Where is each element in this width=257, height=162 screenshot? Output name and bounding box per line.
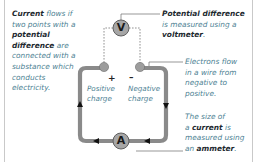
voltmeter-term: voltmeter [162,30,203,39]
negative-charge-label: Negative charge [128,84,160,104]
voltmeter-leader-line [121,14,160,20]
negative-terminal [135,62,144,71]
current-term: Current [12,9,44,18]
potential-difference-term: potential difference [12,30,54,50]
potential-difference-heading: Potential difference [162,9,245,18]
note-text: . [234,144,236,153]
ammeter-symbol: A [113,134,129,148]
voltmeter-lead-left [104,28,113,64]
voltmeter-lead-right [129,28,140,64]
note-text: a [185,123,192,132]
label-line: charge [87,94,115,104]
voltmeter-note: Potential difference is measured using a… [162,9,252,41]
current-explanation-note: Current flows if two points with a poten… [12,9,76,94]
note-line: Electrons flow [185,57,251,68]
label-line: Negative [128,84,160,94]
positive-sign: + [108,73,116,83]
negative-sign: – [129,72,134,82]
current-term: current [192,123,223,132]
label-line: Positive [87,84,115,94]
note-line: negative to [185,78,251,89]
note-line: The size of [185,112,251,123]
electrons-flow-note: Electrons flow in a wire from negative t… [185,57,251,99]
note-line: in a wire from [185,68,251,79]
ammeter-note: The size of a current is measured using … [185,112,251,154]
voltmeter-symbol: V [113,21,129,35]
note-line: measured using [185,133,251,144]
positive-charge-label: Positive charge [87,84,115,104]
ammeter-term: ammeter [197,144,235,153]
note-text: is measured using a [162,20,252,31]
electrons-leader-line [149,62,183,66]
note-line: positive. [185,89,251,100]
note-text: an [185,144,197,153]
note-text: . [203,30,205,39]
label-line: charge [128,94,160,104]
note-text: is [223,123,231,132]
positive-terminal [99,62,108,71]
circuit-wire [80,68,166,141]
